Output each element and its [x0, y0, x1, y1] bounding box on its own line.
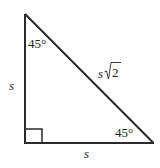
right-angle-marker: [25, 129, 42, 143]
hypotenuse-var: s: [98, 66, 103, 81]
top-angle-label: 45°: [28, 36, 46, 51]
bottom-right-angle-label: 45°: [115, 125, 133, 140]
hypotenuse: [25, 14, 154, 143]
hypotenuse-radicand: 2: [112, 65, 119, 80]
triangle-diagram: 45° 45° s s s 2: [0, 0, 160, 168]
bottom-side-label: s: [84, 146, 89, 161]
hypotenuse-label: s 2: [98, 63, 121, 82]
left-side-label: s: [9, 78, 14, 93]
